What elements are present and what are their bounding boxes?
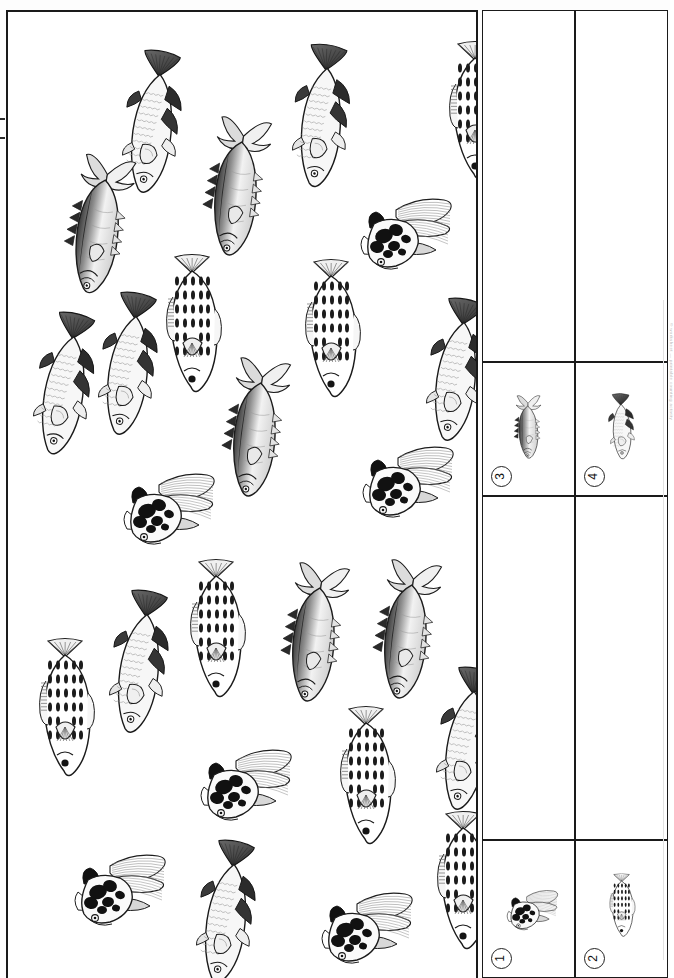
fish-spiny-tuna [270,556,362,717]
fish-speckled-fan-tail-fish [32,639,100,789]
answer-cell-2[interactable] [575,496,668,840]
fish-black-and-white-koi [184,735,296,827]
legend-cell-2: 2 [575,840,668,978]
fish-dark-finned-trout [275,40,369,201]
margin-tick-upper [0,118,5,120]
fish-black-and-white-koi [346,432,458,524]
answer-cell-3[interactable] [482,10,575,362]
fish-spiny-tuna [192,110,284,271]
fish-speckled-fan-tail-fish [183,560,251,710]
fish-speckled-fan-tail-fish [430,812,478,962]
legend-number-2: 2 [584,948,605,969]
fish-black-and-white-koi [305,878,417,970]
legend-cell-4: 4 [575,362,668,496]
legend-fish-spiny-tuna [512,393,545,465]
main-counting-panel [6,10,478,978]
fish-dark-finned-trout [407,293,478,456]
legend-cell-3: 3 [482,362,575,496]
fish-dark-finned-trout [177,835,276,978]
answer-key-table: 3 4 [482,10,668,978]
fish-speckled-fan-tail-fish [442,42,478,192]
fish-dark-finned-trout [90,585,189,748]
fish-speckled-fan-tail-fish [298,260,366,410]
legend-number-1: 1 [491,948,512,969]
fish-speckled-fan-tail-fish [159,255,227,405]
legend-fish-black-and-white-koi [497,882,560,936]
legend-cell-1: 1 [482,840,575,978]
margin-divider [663,300,664,960]
fish-black-and-white-koi [58,840,170,932]
fish-spiny-tuna [51,147,148,309]
margin-tick-lower [0,137,5,139]
margin-copyright-note: © worksheet — printable counting activit… [669,323,674,420]
fish-black-and-white-koi [107,459,219,551]
legend-fish-dark-finned-trout [604,393,638,465]
legend-fish-speckled-fan-tail-fish [606,874,637,945]
fish-speckled-fan-tail-fish [333,707,401,857]
legend-number-4: 4 [584,466,605,487]
answer-cell-4[interactable] [575,10,668,362]
answer-cell-1[interactable] [482,496,575,840]
legend-number-3: 3 [491,466,512,487]
